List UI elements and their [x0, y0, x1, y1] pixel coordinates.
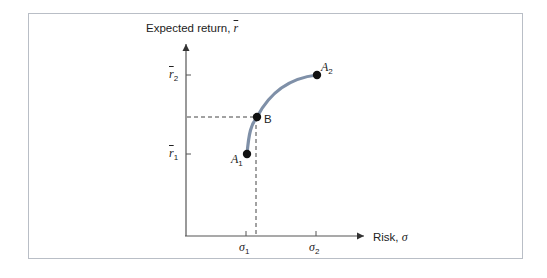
- point-label-a2: A2: [321, 61, 333, 76]
- point-a1: [243, 150, 251, 158]
- portfolio-diagram: [0, 0, 547, 278]
- tick-label-s1-sub: 1: [245, 247, 249, 256]
- tick-label-s2-sub: 2: [315, 247, 319, 256]
- x-axis-label-text: Risk,: [373, 231, 402, 243]
- point-a2: [313, 71, 321, 79]
- y-axis-label: Expected return, r: [146, 22, 238, 35]
- point-label-b: B: [264, 114, 272, 126]
- point-b: [253, 113, 261, 121]
- tick-label-r1-sub: 1: [174, 153, 178, 162]
- tick-label-r2-sub: 2: [174, 74, 178, 83]
- x-axis-label-symbol: σ: [402, 230, 408, 244]
- y-axis-label-text: Expected return,: [146, 22, 234, 34]
- point-label-a1-sub: 1: [238, 159, 242, 168]
- tick-label-r1: r1: [169, 147, 178, 162]
- point-label-a2-sub: 2: [328, 67, 332, 76]
- x-axis-label: Risk, σ: [373, 231, 408, 244]
- y-axis-label-symbol: r: [234, 21, 239, 35]
- tick-label-s1: σ1: [239, 241, 249, 256]
- tick-label-r2: r2: [169, 68, 178, 83]
- tick-label-s2: σ2: [309, 241, 319, 256]
- point-label-b-text: B: [264, 113, 272, 125]
- point-label-a1: A1: [231, 153, 243, 168]
